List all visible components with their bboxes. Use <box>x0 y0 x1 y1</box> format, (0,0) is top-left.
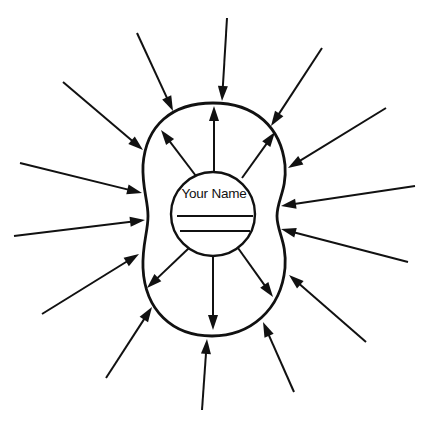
arrowhead-icon <box>288 156 303 168</box>
arrowhead-icon <box>262 132 275 147</box>
arrowhead-icon <box>162 95 173 111</box>
arrowhead-icon <box>126 185 142 195</box>
center-name-circle <box>171 172 255 256</box>
inward-arrow-shaft <box>267 331 294 392</box>
arrowhead-icon <box>201 339 211 354</box>
inward-arrow-shaft <box>297 282 366 342</box>
arrowhead-icon <box>140 307 152 322</box>
pressure-diagram <box>0 0 430 425</box>
outward-arrow-shaft <box>167 138 196 176</box>
arrowhead-icon <box>281 228 297 238</box>
arrowhead-icon <box>263 322 274 338</box>
outward-arrow-shaft <box>154 248 189 281</box>
inward-arrow-shaft <box>297 108 386 163</box>
outward-arrow-shaft <box>242 140 269 178</box>
arrowhead-icon <box>208 315 218 330</box>
outward-arrow-shaft <box>238 248 267 289</box>
arrowhead-icon <box>281 199 297 209</box>
inward-arrow-shaft <box>20 163 132 191</box>
arrowhead-icon <box>124 254 139 266</box>
inward-arrow-shaft <box>137 33 169 102</box>
inward-arrow-shaft <box>223 18 227 91</box>
inward-arrow-shaft <box>202 349 206 410</box>
arrowhead-icon <box>209 106 219 121</box>
arrowhead-icon <box>161 130 174 145</box>
inward-arrow-shaft <box>63 82 135 144</box>
center-label: Your Name <box>168 186 260 201</box>
inward-arrow-shaft <box>42 259 130 314</box>
inward-arrow-shaft <box>14 221 135 236</box>
inward-arrow-shaft <box>291 232 408 262</box>
arrowhead-icon <box>218 86 228 101</box>
inward-arrow-shaft <box>276 48 322 118</box>
inward-arrow-shaft <box>106 315 147 378</box>
inward-arrow-shaft <box>291 186 415 205</box>
arrowhead-icon <box>130 217 145 227</box>
arrowhead-icon <box>260 282 273 297</box>
arrowhead-icon <box>271 111 283 126</box>
